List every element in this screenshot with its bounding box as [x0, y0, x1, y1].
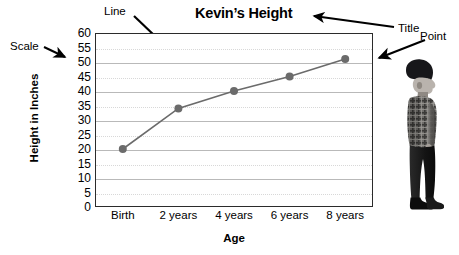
- x-axis-tick-labels: Birth2 years4 years6 years8 years: [95, 210, 373, 228]
- x-tick-label-3: 6 years: [271, 210, 309, 222]
- y-axis-tick-labels: 605550454035302520151050: [57, 33, 91, 207]
- data-point-1: [174, 104, 182, 112]
- y-tick-label-45: 45: [78, 71, 91, 83]
- x-tick-label-0: Birth: [111, 210, 135, 222]
- boy-standing-profile-photo: [388, 58, 444, 213]
- y-tick-label-10: 10: [78, 172, 91, 184]
- pants: [410, 145, 436, 199]
- y-tick-label-25: 25: [78, 129, 91, 141]
- data-point-4: [341, 55, 349, 63]
- x-tick-label-4: 8 years: [326, 210, 364, 222]
- x-axis-title: Age: [95, 232, 373, 244]
- data-point-3: [286, 73, 294, 81]
- data-point-2: [230, 87, 238, 95]
- x-tick-label-1: 2 years: [160, 210, 198, 222]
- y-tick-label-20: 20: [78, 143, 91, 155]
- y-tick-label-60: 60: [78, 27, 91, 39]
- data-series-line: [95, 33, 373, 207]
- y-axis-title: Height in Inches: [28, 58, 40, 178]
- data-point-0: [119, 145, 127, 153]
- y-tick-label-50: 50: [78, 56, 91, 68]
- series-polyline: [123, 59, 345, 149]
- y-tick-label-40: 40: [78, 85, 91, 97]
- y-tick-label-0: 0: [84, 201, 91, 213]
- face: [413, 78, 435, 95]
- x-tick-label-2: 4 years: [215, 210, 253, 222]
- y-tick-label-5: 5: [84, 187, 91, 199]
- y-tick-label-55: 55: [78, 42, 91, 54]
- y-tick-label-35: 35: [78, 100, 91, 112]
- y-tick-label-30: 30: [78, 114, 91, 126]
- y-tick-label-15: 15: [78, 158, 91, 170]
